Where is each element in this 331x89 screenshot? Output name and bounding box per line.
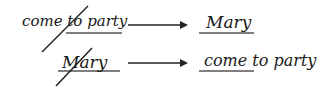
row1-right-text: Mary (206, 12, 251, 32)
arrow-head-1 (180, 21, 188, 29)
row2-left-text: Mary (62, 52, 107, 72)
arrow-head-2 (180, 59, 188, 67)
row1-left-text: come to party (22, 12, 127, 30)
row2-right-text: come to party (204, 51, 316, 70)
